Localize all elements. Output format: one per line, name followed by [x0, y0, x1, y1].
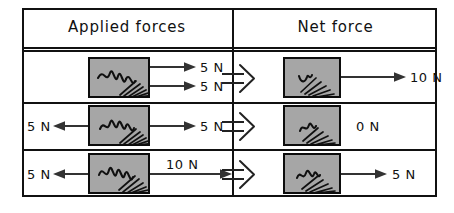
- implies-arrow-row1: [222, 64, 262, 94]
- label-row3-force1: 5 N: [27, 168, 51, 181]
- arrow-row2-force2: [150, 120, 196, 132]
- block-row2-net: [283, 105, 341, 146]
- force-table-figure: Applied forces Net force 5 N 5 N: [0, 0, 454, 213]
- header-net-force: Net force: [234, 8, 437, 47]
- row-separator-1: [22, 102, 437, 104]
- arrow-row3-force2: [150, 168, 232, 180]
- label-row1-force1: 5 N: [200, 61, 224, 74]
- label-row1-net: 10 N: [410, 71, 442, 84]
- label-row1-force2: 5 N: [200, 80, 224, 93]
- label-row2-force2: 5 N: [200, 120, 224, 133]
- implies-arrow-row2: [222, 112, 262, 142]
- implies-arrow-row3: [222, 160, 262, 190]
- header-rule-lower: [22, 50, 437, 52]
- block-row2-applied: [88, 105, 150, 146]
- arrow-row3-force1: [53, 168, 88, 180]
- arrow-row1-net: [341, 71, 406, 83]
- row-separator-2: [22, 149, 437, 151]
- label-row3-net: 5 N: [392, 168, 416, 181]
- block-row3-applied: [88, 153, 150, 194]
- header-applied-forces: Applied forces: [22, 8, 232, 47]
- arrow-row1-force2: [150, 80, 196, 92]
- arrow-row2-force1: [53, 120, 88, 132]
- label-row2-force1: 5 N: [27, 120, 51, 133]
- block-row3-net: [283, 153, 341, 194]
- table-header-row: Applied forces Net force: [22, 8, 437, 47]
- label-row2-net: 0 N: [356, 120, 380, 133]
- block-row1-applied: [88, 57, 150, 98]
- block-row1-net: [283, 57, 341, 98]
- header-rule-upper: [22, 47, 437, 49]
- arrow-row1-force1: [150, 61, 196, 73]
- arrow-row3-net: [341, 168, 387, 180]
